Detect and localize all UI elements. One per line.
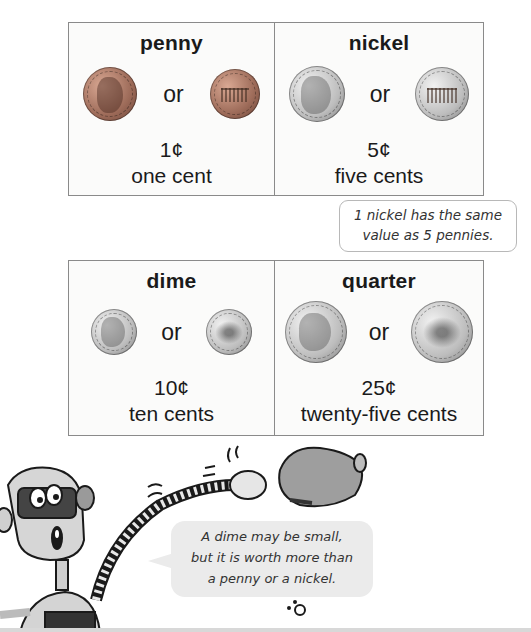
- coin-name: nickel: [275, 31, 483, 59]
- coin-name: penny: [69, 31, 274, 59]
- or-label: or: [161, 319, 181, 346]
- coin-name: dime: [69, 269, 274, 297]
- coin-value: 1¢: [69, 137, 274, 163]
- coin-table-top-row: penny or 1¢ one cent nickel or 5¢ five c…: [68, 22, 484, 196]
- coin-name: quarter: [275, 269, 483, 297]
- coin-images: or: [275, 297, 483, 367]
- or-label: or: [163, 81, 183, 108]
- coin-value-words: twenty-five cents: [275, 401, 483, 427]
- penny-card: penny or 1¢ one cent: [69, 23, 274, 195]
- robot-head-icon: [0, 468, 94, 560]
- or-label: or: [370, 81, 390, 108]
- dime-front-icon: [91, 309, 137, 355]
- note-line-2: value as 5 pennies.: [340, 225, 516, 245]
- speech-line-1: A dime may be small,: [171, 526, 373, 547]
- penny-back-icon: [210, 69, 260, 119]
- coin-value: 5¢: [275, 137, 483, 163]
- coin-table-bottom-row: dime or 10¢ ten cents quarter or 25¢ twe…: [68, 260, 484, 436]
- robot-speech-bubble: A dime may be small, but it is worth mor…: [171, 521, 373, 597]
- penny-front-icon: [83, 67, 137, 121]
- coin-images: or: [69, 59, 274, 129]
- page-bottom-edge: [0, 628, 531, 632]
- speech-line-2: but it is worth more than: [171, 547, 373, 568]
- note-callout: 1 nickel has the same value as 5 pennies…: [339, 200, 517, 252]
- speech-line-3: a penny or a nickel.: [171, 568, 373, 589]
- coin-value: 10¢: [69, 375, 274, 401]
- or-label: or: [369, 319, 389, 346]
- quarter-back-icon: [411, 301, 473, 363]
- nickel-back-icon: [415, 67, 469, 121]
- coin-images: or: [275, 59, 483, 129]
- dime-back-icon: [206, 309, 252, 355]
- quarter-front-icon: [285, 301, 347, 363]
- coin-value-words: one cent: [69, 163, 274, 189]
- piggy-bank-icon: [279, 448, 366, 507]
- note-line-1: 1 nickel has the same: [340, 205, 516, 225]
- nickel-card: nickel or 5¢ five cents: [274, 23, 483, 195]
- coin-value: 25¢: [275, 375, 483, 401]
- quarter-card: quarter or 25¢ twenty-five cents: [274, 261, 483, 435]
- dime-card: dime or 10¢ ten cents: [69, 261, 274, 435]
- coin-images: or: [69, 297, 274, 367]
- coin-value-words: ten cents: [69, 401, 274, 427]
- coin-value-words: five cents: [275, 163, 483, 189]
- nickel-front-icon: [289, 66, 345, 122]
